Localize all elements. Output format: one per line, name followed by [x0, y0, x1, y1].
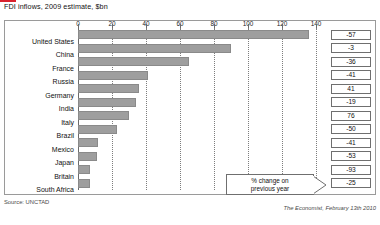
category-label-row: Italy	[4, 111, 74, 121]
category-label-row: Japan	[4, 151, 74, 161]
percent-change-box: -3	[331, 43, 371, 53]
gridline	[248, 28, 249, 190]
percent-change-box: 76	[331, 111, 371, 121]
bar	[78, 179, 90, 188]
percent-change-box: -53	[331, 151, 371, 161]
callout-box: % change on previous year	[226, 174, 314, 195]
callout-line-1: % change on	[227, 177, 313, 185]
bar	[78, 165, 90, 174]
callout-line-2: previous year	[227, 185, 313, 193]
category-label-row: India	[4, 97, 74, 107]
bar	[78, 44, 231, 53]
percent-change-box: -36	[331, 57, 371, 67]
category-label-row: South Africa	[4, 178, 74, 188]
tick-mark	[146, 24, 147, 28]
category-label-row: Germany	[4, 84, 74, 94]
gridline	[282, 28, 283, 190]
category-label-row: China	[4, 43, 74, 53]
tick-mark	[78, 24, 79, 28]
bar	[78, 30, 309, 39]
percent-change-box: -19	[331, 97, 371, 107]
chart-page: FDI inflows, 2009 estimate, $bn 02040608…	[0, 0, 380, 225]
percent-change-box: -25	[331, 178, 371, 188]
percent-change-box: -41	[331, 70, 371, 80]
bar	[78, 138, 98, 147]
tick-mark	[248, 24, 249, 28]
bar	[78, 71, 148, 80]
category-label-row: Russia	[4, 70, 74, 80]
percent-change-box: -57	[331, 30, 371, 40]
callout-pointer-icon	[313, 176, 327, 194]
bar	[78, 111, 129, 120]
gridline	[316, 28, 317, 190]
bar	[78, 98, 136, 107]
tick-mark	[112, 24, 113, 28]
percent-change-box: -93	[331, 165, 371, 175]
tick-mark	[180, 24, 181, 28]
source-note: Source: UNCTAD	[4, 199, 49, 205]
tick-mark	[316, 24, 317, 28]
percent-change-box: -50	[331, 124, 371, 134]
category-label-row: Mexico	[4, 138, 74, 148]
tick-mark	[282, 24, 283, 28]
tick-mark	[214, 24, 215, 28]
category-label-row: France	[4, 57, 74, 67]
category-label-row: United States	[4, 30, 74, 40]
page-title: FDI inflows, 2009 estimate, $bn	[4, 2, 108, 11]
category-label-row: Britain	[4, 165, 74, 175]
percent-change-box: -41	[331, 138, 371, 148]
plot-area	[78, 28, 316, 190]
bar	[78, 84, 139, 93]
bar	[78, 57, 189, 66]
credit-note: The Economist, February 13th 2010	[284, 205, 376, 211]
bar	[78, 125, 117, 134]
category-label-row: Brazil	[4, 124, 74, 134]
category-label: South Africa	[36, 186, 74, 193]
bar	[78, 152, 97, 161]
percent-change-box: 41	[331, 84, 371, 94]
